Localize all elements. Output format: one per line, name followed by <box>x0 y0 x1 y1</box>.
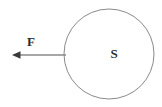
force-label: F <box>27 34 35 49</box>
force-arrow-head-icon <box>12 51 21 58</box>
figure-canvas: F S <box>0 0 162 107</box>
sphere-label: S <box>110 46 117 61</box>
sphere-circle <box>64 9 154 99</box>
force-diagram: F S <box>0 0 162 107</box>
